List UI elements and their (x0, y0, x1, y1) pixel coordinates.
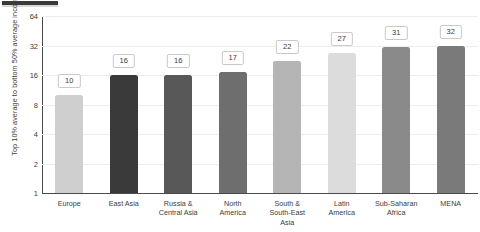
bar-group[interactable]: 10 (42, 16, 97, 193)
x-tick-label: Russia & Central Asia (151, 199, 206, 218)
bar-value-label: 31 (385, 26, 407, 40)
y-tick-label: 1 (14, 189, 38, 198)
x-tick-label: MENA (424, 199, 479, 208)
bar-group[interactable]: 17 (206, 16, 261, 193)
gridline (42, 193, 478, 194)
bar-value-label: 16 (167, 54, 189, 68)
bar-series: 1016161722273132 (42, 16, 478, 193)
bar-group[interactable]: 32 (424, 16, 479, 193)
bar[interactable] (110, 75, 138, 193)
bar[interactable] (273, 61, 301, 193)
bar-value-label: 16 (113, 54, 135, 68)
x-tick-label: Europe (42, 199, 97, 208)
bar-value-label: 22 (276, 40, 298, 54)
x-axis-labels: EuropeEast AsiaRussia & Central AsiaNort… (42, 199, 478, 232)
bar-group[interactable]: 22 (260, 16, 315, 193)
bar[interactable] (55, 95, 83, 193)
bar[interactable] (382, 47, 410, 193)
bar-group[interactable]: 16 (97, 16, 152, 193)
bar-value-label: 27 (331, 32, 353, 46)
bar-group[interactable]: 27 (315, 16, 370, 193)
bar-value-label: 32 (440, 25, 462, 39)
bar-value-label: 17 (222, 51, 244, 65)
x-tick-label: North America (206, 199, 261, 218)
bar-value-label: 10 (58, 74, 80, 88)
bar-group[interactable]: 31 (369, 16, 424, 193)
y-axis-title: Top 10% average to bottom 50% average in… (10, 0, 19, 163)
x-tick-label: South & South-East Asia (260, 199, 315, 227)
bar[interactable] (219, 72, 247, 193)
x-tick-label: East Asia (97, 199, 152, 208)
chart-figure: Top 10% average to bottom 50% average in… (0, 0, 480, 232)
bar[interactable] (328, 53, 356, 193)
bar[interactable] (164, 75, 192, 193)
bar-group[interactable]: 16 (151, 16, 206, 193)
x-tick-label: Sub-Saharan Africa (369, 199, 424, 218)
x-tick-label: Latin America (315, 199, 370, 218)
plot-area: 1016161722273132 (42, 16, 478, 193)
bar[interactable] (437, 46, 465, 194)
